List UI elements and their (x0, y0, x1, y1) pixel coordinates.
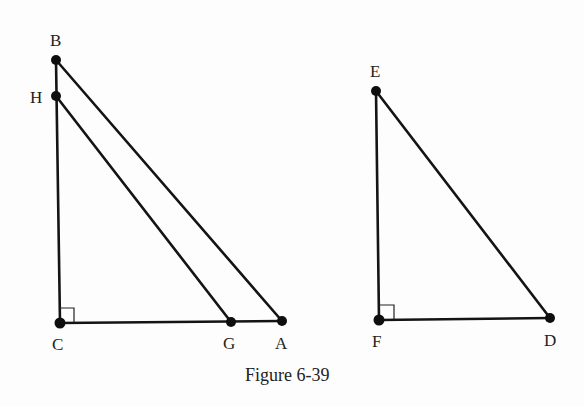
figure-caption: Figure 6-39 (245, 365, 330, 385)
point-E (371, 86, 381, 96)
point-F (374, 315, 385, 326)
label-A: A (275, 334, 288, 353)
segment-BA (56, 60, 282, 321)
point-B (51, 55, 61, 65)
segment-CA (60, 321, 282, 323)
segment-FD (379, 318, 550, 320)
segment-ED (376, 91, 550, 318)
label-D: D (544, 331, 556, 350)
segment-HG (56, 96, 231, 322)
label-G: G (223, 334, 235, 353)
left-triangle-group: B H C G A (30, 31, 288, 354)
figure-canvas: B H C G A E F D Figure 6-39 (0, 0, 584, 406)
label-F: F (372, 332, 381, 351)
segment-EF (376, 91, 379, 320)
right-triangle-group: E F D (370, 62, 556, 351)
point-C (55, 318, 66, 329)
point-H (51, 91, 61, 101)
point-D (545, 313, 555, 323)
label-C: C (52, 335, 63, 354)
label-B: B (50, 31, 61, 50)
point-A (277, 316, 287, 326)
point-G (226, 317, 236, 327)
label-H: H (30, 88, 42, 107)
label-E: E (370, 62, 380, 81)
